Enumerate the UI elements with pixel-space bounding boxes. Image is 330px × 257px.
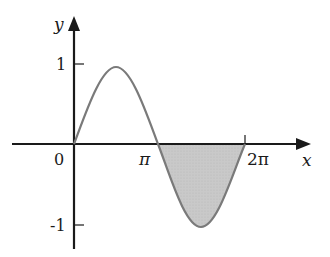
y-tick-label-1: 1 — [56, 55, 66, 74]
y-axis-arrow-icon — [68, 16, 80, 31]
x-tick-label-pi: π — [138, 149, 151, 169]
x-axis-label: x — [302, 150, 312, 170]
x-tick-label-2pi: 2π — [247, 149, 269, 169]
shaded-area — [158, 144, 245, 227]
x-tick-label-0: 0 — [54, 150, 64, 169]
y-tick-label-neg1: -1 — [50, 216, 66, 235]
sine-plot: y x 1 -1 0 π 2π — [0, 0, 330, 257]
y-axis-label: y — [53, 14, 64, 34]
x-axis-arrow-icon — [296, 138, 311, 150]
